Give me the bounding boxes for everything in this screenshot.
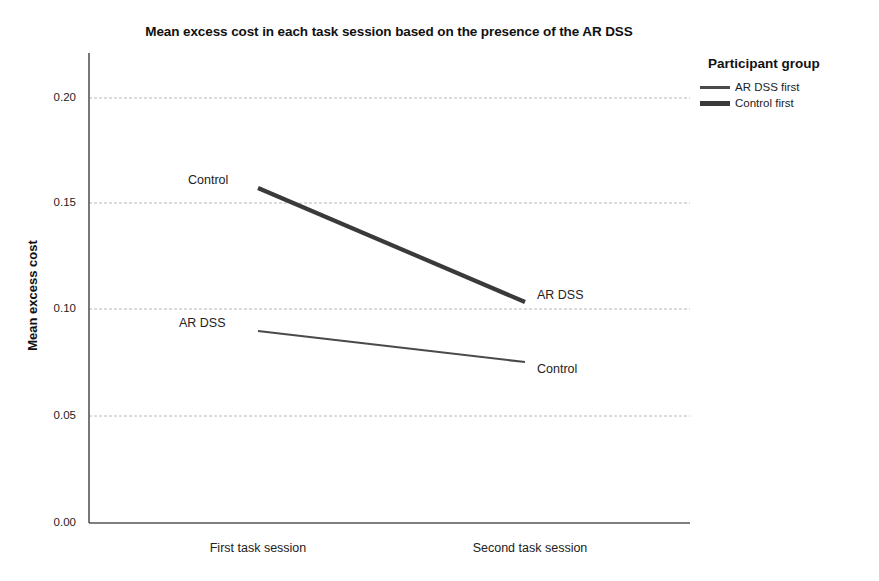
series-line-control-first	[258, 188, 525, 302]
chart-container: Mean excess cost in each task session ba…	[0, 0, 879, 581]
series-line-ar-dss-first	[258, 331, 525, 362]
plot-area	[0, 0, 879, 581]
